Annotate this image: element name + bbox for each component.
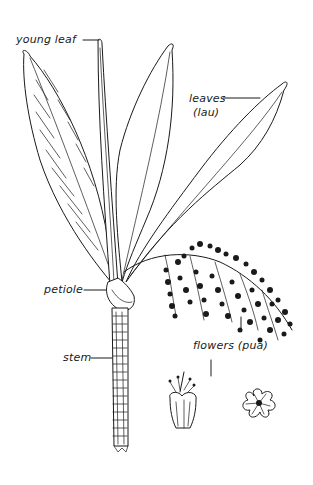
label-stem: stem xyxy=(63,352,91,363)
stem xyxy=(112,308,128,452)
petiole xyxy=(107,278,135,310)
label-leaves-hawaiian: (lau) xyxy=(193,107,219,118)
label-petiole: petiole xyxy=(44,284,83,295)
flower-side-view xyxy=(169,372,197,428)
inflorescence xyxy=(124,241,293,343)
flower-top-view xyxy=(243,389,275,417)
label-leaves: leaves xyxy=(189,93,226,104)
label-flowers: flowers (pua) xyxy=(193,340,268,351)
plant-illustration xyxy=(0,0,313,485)
center-leaf xyxy=(116,44,173,282)
label-young-leaf: young leaf xyxy=(16,34,76,45)
plant-diagram: young leaf leaves (lau) petiole stem flo… xyxy=(0,0,313,485)
flower-clusters xyxy=(164,241,293,343)
